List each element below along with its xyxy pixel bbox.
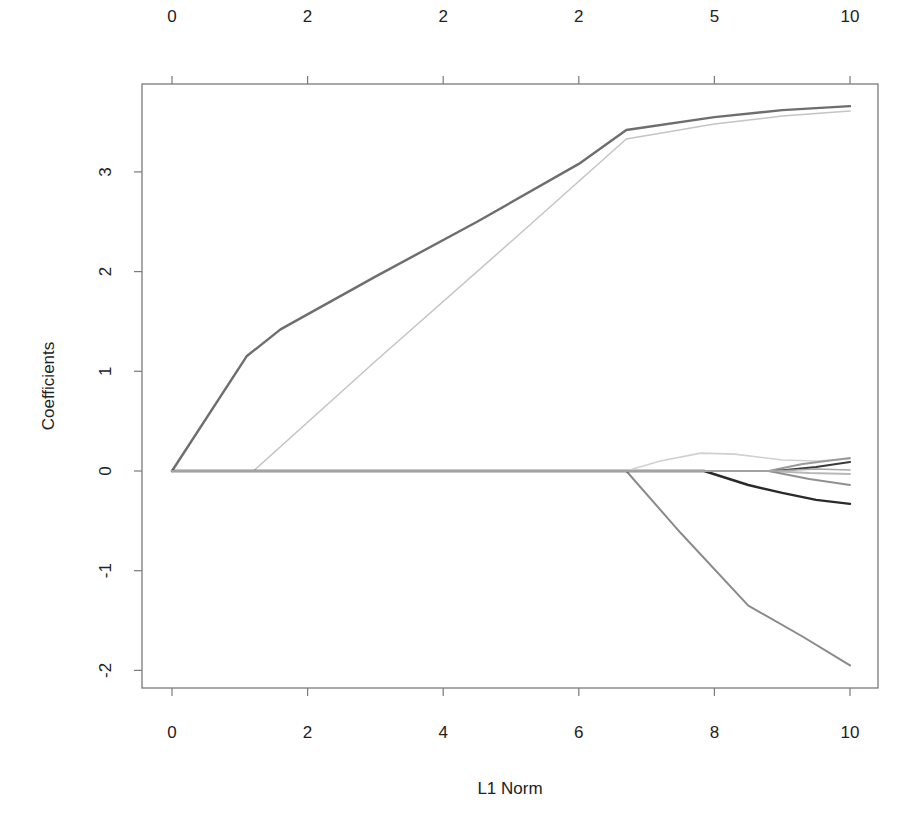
y-tick-label: 2: [96, 267, 115, 276]
chart-background: [0, 0, 918, 830]
x-tick-label: 0: [167, 723, 176, 742]
y-tick-label: 3: [96, 167, 115, 176]
x-axis-title: L1 Norm: [477, 779, 542, 798]
y-tick-label: -2: [96, 663, 115, 678]
top-tick-label: 10: [841, 7, 860, 26]
x-tick-label: 10: [841, 723, 860, 742]
top-tick-label: 2: [438, 7, 447, 26]
top-tick-label: 2: [303, 7, 312, 26]
top-tick-label: 0: [167, 7, 176, 26]
x-tick-label: 6: [574, 723, 583, 742]
x-tick-label: 4: [438, 723, 447, 742]
y-tick-label: -1: [96, 563, 115, 578]
x-tick-label: 2: [303, 723, 312, 742]
top-tick-label: 2: [574, 7, 583, 26]
y-axis-title: Coefficients: [39, 342, 58, 431]
lasso-coefficient-path-chart: 0246810 0222510 -2-10123 L1 Norm Coeffic…: [0, 0, 918, 830]
y-tick-label: 0: [96, 466, 115, 475]
top-tick-label: 5: [710, 7, 719, 26]
y-tick-label: 1: [96, 367, 115, 376]
x-tick-label: 8: [710, 723, 719, 742]
